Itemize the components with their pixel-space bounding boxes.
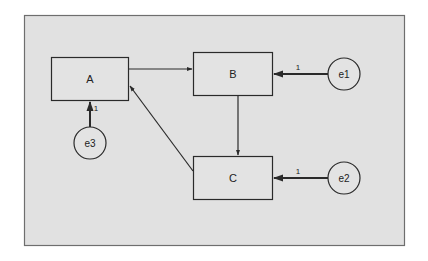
node-b-label: B <box>229 68 236 80</box>
node-e3-label: e3 <box>84 138 96 149</box>
diagram-canvas: 1 1 1 A B C e1 e2 e3 <box>0 0 428 261</box>
node-a-label: A <box>86 73 94 85</box>
node-b[interactable]: B <box>194 53 273 96</box>
edge-label-e3-a: 1 <box>94 104 99 113</box>
node-e1-label: e1 <box>338 69 350 80</box>
node-c[interactable]: C <box>194 157 273 200</box>
node-e1[interactable]: e1 <box>328 58 360 90</box>
node-e2-label: e2 <box>338 173 350 184</box>
node-a[interactable]: A <box>52 58 129 101</box>
edge-label-e2-c: 1 <box>296 167 301 176</box>
node-e3[interactable]: e3 <box>74 127 106 159</box>
edge-label-e1-b: 1 <box>296 63 301 72</box>
path-diagram: 1 1 1 A B C e1 e2 e3 <box>0 0 428 261</box>
node-e2[interactable]: e2 <box>328 162 360 194</box>
node-c-label: C <box>229 172 237 184</box>
